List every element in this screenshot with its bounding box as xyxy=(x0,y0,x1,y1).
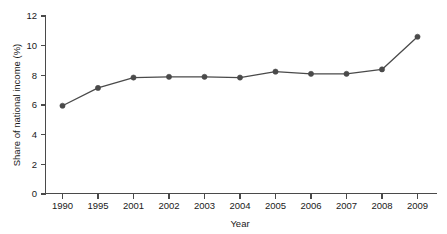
x-tick-label-2005: 2005 xyxy=(265,200,286,211)
data-point-1990 xyxy=(60,103,65,108)
data-point-2005 xyxy=(273,69,278,74)
data-series-line xyxy=(63,37,418,106)
x-axis-tick-labels: 1990 1995 2001 2002 2003 2004 2005 2006 … xyxy=(52,200,428,211)
x-tick-label-2001: 2001 xyxy=(123,200,144,211)
x-axis-title: Year xyxy=(230,218,249,229)
y-axis-tick-labels: 0 2 4 6 8 10 12 xyxy=(26,10,37,199)
x-tick-label-1995: 1995 xyxy=(87,200,108,211)
y-tick-label-10: 10 xyxy=(26,40,37,51)
y-tick-label-8: 8 xyxy=(32,70,37,81)
x-tick-label-2006: 2006 xyxy=(300,200,321,211)
x-tick-label-2009: 2009 xyxy=(407,200,428,211)
data-point-2001 xyxy=(131,75,136,80)
y-axis-ticks xyxy=(41,16,46,194)
y-tick-label-0: 0 xyxy=(32,188,37,199)
x-tick-label-2003: 2003 xyxy=(194,200,215,211)
data-point-2008 xyxy=(379,67,384,72)
data-point-2003 xyxy=(202,74,207,79)
y-tick-label-2: 2 xyxy=(32,159,37,170)
x-tick-label-2007: 2007 xyxy=(336,200,357,211)
y-axis-title: Share of national income (%) xyxy=(11,44,22,167)
data-point-2006 xyxy=(308,71,313,76)
x-tick-label-2002: 2002 xyxy=(158,200,179,211)
y-tick-label-4: 4 xyxy=(32,129,37,140)
x-tick-label-2008: 2008 xyxy=(371,200,392,211)
y-tick-label-12: 12 xyxy=(26,10,37,21)
data-point-2002 xyxy=(166,74,171,79)
data-point-1995 xyxy=(95,85,100,90)
y-tick-label-6: 6 xyxy=(32,99,37,110)
x-tick-label-2004: 2004 xyxy=(229,200,250,211)
data-point-2007 xyxy=(344,71,349,76)
data-point-2009 xyxy=(415,34,420,39)
line-chart: 0 2 4 6 8 10 12 1990 1995 2001 xyxy=(0,0,447,234)
x-axis-ticks xyxy=(63,194,418,199)
x-tick-label-1990: 1990 xyxy=(52,200,73,211)
data-point-2004 xyxy=(237,75,242,80)
chart-figure: 0 2 4 6 8 10 12 1990 1995 2001 xyxy=(0,0,447,234)
